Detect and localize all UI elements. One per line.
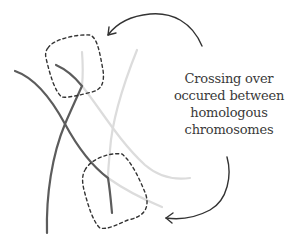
caption-line-3: homologous: [168, 104, 289, 121]
crossover-caption: Crossing over occured between homologous…: [168, 70, 289, 138]
arrow-to-upper-region: [108, 14, 202, 46]
arrow-to-lower-region: [166, 157, 229, 219]
caption-line-2: occured between: [168, 87, 289, 104]
caption-line-4: chromosomes: [168, 121, 289, 138]
caption-line-1: Crossing over: [168, 70, 289, 87]
dark-chromosome-strands: [15, 65, 112, 233]
dark-strand-2: [47, 65, 82, 233]
upper-crossover-region: [46, 35, 104, 97]
dark-strand-1: [15, 71, 112, 213]
light-strand-2: [108, 50, 162, 207]
